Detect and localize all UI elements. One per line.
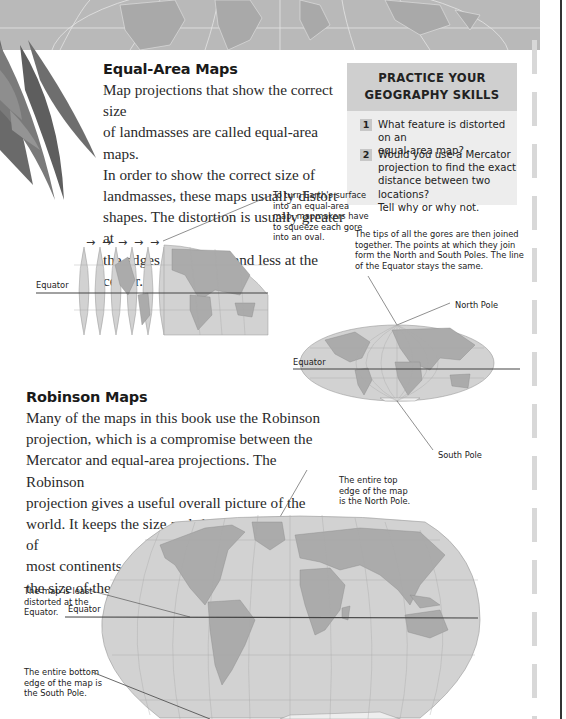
question-line: Would you use a Mercator: [378, 148, 517, 161]
oval-caption: The tips of all the gores are then joine…: [355, 229, 524, 271]
paragraph-line: Many of the maps in this book use the Ro…: [26, 407, 326, 428]
page-edge-line: [560, 0, 562, 719]
arrow-right-icon: →: [102, 236, 111, 249]
practice-title-line: GEOGRAPHY SKILLS: [347, 87, 517, 104]
equator-label: Equator: [293, 357, 326, 367]
question-line: distance between two locations?: [378, 174, 517, 200]
question-line: projection to find the exact: [378, 161, 517, 174]
question-number-badge: 2: [360, 149, 372, 161]
paragraph-line: In order to show the correct size of: [103, 164, 348, 185]
arrow-right-icon: →: [118, 236, 127, 249]
arrow-right-icon: →: [134, 236, 143, 249]
equator-label: Equator: [68, 604, 101, 614]
paragraph-line: of landmasses are called equal-area maps…: [103, 121, 348, 163]
practice-box-title: PRACTICE YOUR GEOGRAPHY SKILLS: [347, 63, 517, 111]
north-pole-label: North Pole: [455, 300, 498, 310]
paragraph-line: Map projections that show the correct si…: [103, 79, 348, 121]
caption-line: together. The points at which they join: [355, 240, 524, 251]
caption-line: form the North and South Poles. The line: [355, 250, 524, 261]
question-line: What feature is distorted on an: [378, 118, 517, 144]
practice-question-2: Would you use a Mercator projection to f…: [378, 148, 517, 214]
question-line: Tell why or why not.: [378, 201, 517, 214]
robinson-heading: Robinson Maps: [26, 389, 147, 405]
caption-line: The tips of all the gores are then joine…: [355, 229, 524, 240]
gores-diagram: Equator → → → → →: [0, 185, 300, 345]
arrow-right-icon: →: [86, 236, 95, 249]
robinson-map: Equator: [0, 470, 540, 719]
question-number-badge: 1: [360, 119, 372, 131]
equal-area-heading: Equal-Area Maps: [103, 61, 238, 77]
arrow-right-icon: →: [150, 236, 159, 249]
paragraph-line: projection, which is a compromise betwee…: [26, 428, 326, 449]
practice-title-line: PRACTICE YOUR: [347, 70, 517, 87]
equator-label: Equator: [36, 280, 69, 290]
south-pole-label: South Pole: [438, 450, 482, 460]
practice-skills-box: PRACTICE YOUR GEOGRAPHY SKILLS 1 What fe…: [347, 63, 517, 205]
